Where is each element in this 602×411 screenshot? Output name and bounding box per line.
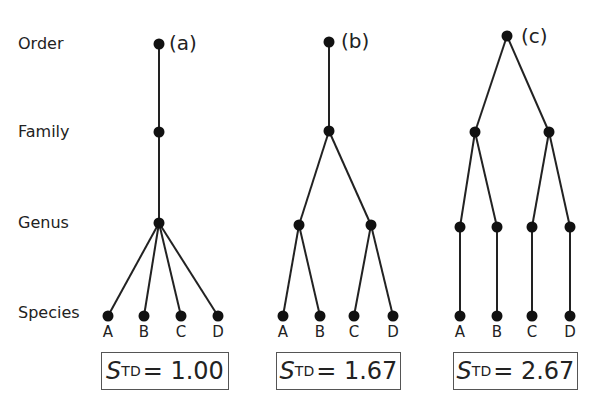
rank-label-order: Order (18, 34, 63, 53)
panel-label-a: (a) (169, 31, 197, 55)
species-label: D (208, 323, 228, 341)
species-label: B (134, 323, 154, 341)
tree-edges (108, 36, 570, 316)
std-box-a: STD= 1.00 (101, 352, 229, 390)
species-label: C (522, 323, 542, 341)
species-label: C (344, 323, 364, 341)
std-box-c: STD= 2.67 (453, 352, 578, 390)
species-label: D (560, 323, 580, 341)
tree-nodes (103, 31, 576, 322)
std-value: 1.67 (344, 357, 397, 385)
std-value: 2.67 (521, 357, 574, 385)
species-label: A (273, 323, 293, 341)
std-equals: = (493, 357, 513, 385)
std-symbol: S (280, 357, 295, 385)
rank-label-family: Family (18, 122, 69, 141)
species-label: A (98, 323, 118, 341)
species-label: B (487, 323, 507, 341)
rank-label-species: Species (18, 303, 80, 322)
species-label: D (383, 323, 403, 341)
std-symbol: S (457, 357, 472, 385)
std-equals: = (316, 357, 336, 385)
std-value: 1.00 (170, 357, 223, 385)
species-label: A (450, 323, 470, 341)
std-subscript: TD (295, 363, 314, 379)
std-subscript: TD (472, 363, 491, 379)
panel-label-c: (c) (521, 24, 548, 48)
species-label: C (171, 323, 191, 341)
rank-label-genus: Genus (18, 213, 69, 232)
std-box-b: STD= 1.67 (276, 352, 401, 390)
taxonomic-trees (0, 0, 602, 411)
species-label: B (310, 323, 330, 341)
panel-label-b: (b) (341, 29, 369, 53)
std-symbol: S (106, 357, 121, 385)
std-equals: = (143, 357, 163, 385)
std-subscript: TD (121, 363, 140, 379)
